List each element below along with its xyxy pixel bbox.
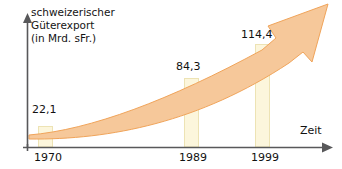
y-axis-label-line-2: Güterexport [31,19,115,32]
y-axis-label-line-3: (in Mrd. sFr.) [31,32,115,45]
y-axis-label: schweizerischer Güterexport (in Mrd. sFr… [31,6,115,44]
value-label-1989: 84,3 [176,60,201,73]
x-tick-label-1989: 1989 [179,151,207,164]
y-axis-label-line-1: schweizerischer [31,6,115,19]
x-axis [23,143,333,153]
chart-container: schweizerischer Güterexport (in Mrd. sFr… [0,0,342,169]
x-tick-label-1999: 1999 [251,151,279,164]
x-tick-label-1970: 1970 [34,151,62,164]
x-axis-label: Zeit [300,124,322,137]
value-label-1999: 114,4 [241,28,273,41]
value-label-1970: 22,1 [32,103,57,116]
